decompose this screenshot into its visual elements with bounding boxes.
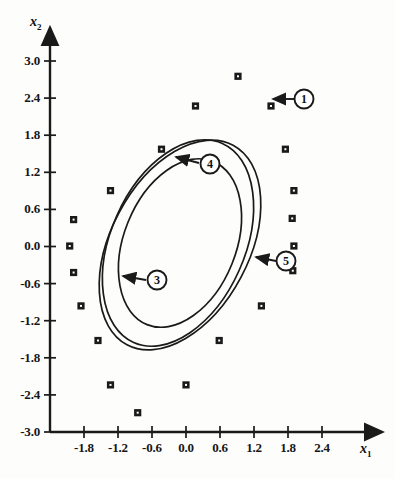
inner-ellipse: [95, 140, 265, 345]
scatter-plot-figure: 3.0 2.4 1.8 1.2 0.6 0.0 -0.6 -1.2 -1.8 -…: [0, 0, 395, 479]
data-point: [96, 338, 101, 343]
y-axis-title-text: x: [30, 14, 37, 29]
data-points: [67, 74, 296, 415]
y-tick-label-0.6: 0.6: [0, 201, 40, 217]
x-tick-label-neg1.8: -1.8: [74, 440, 94, 456]
data-point: [217, 338, 222, 343]
y-tick-label-0.0: 0.0: [0, 238, 40, 254]
data-point: [290, 216, 295, 221]
callout-label-4: 4: [207, 158, 213, 170]
data-point: [184, 383, 189, 388]
plot-canvas: [0, 0, 395, 479]
x-axis-title-subscript: 1: [367, 449, 372, 459]
y-tick-label-neg1.8: -1.8: [0, 350, 40, 366]
data-point: [283, 147, 288, 152]
callout-label-1: 1: [301, 93, 307, 105]
data-point: [71, 217, 76, 222]
data-point: [236, 74, 241, 79]
y-tick-label-3.0: 3.0: [0, 53, 40, 69]
callout-arrow-3: [123, 276, 146, 280]
data-point: [292, 188, 297, 193]
x-tick-label-1.8: 1.8: [280, 440, 296, 456]
y-axis-title: x2: [30, 14, 42, 32]
data-point: [67, 244, 72, 249]
data-point: [108, 383, 113, 388]
x-tick-label-0.0: 0.0: [178, 440, 194, 456]
x-axis-title: x1: [360, 441, 372, 459]
axis-lines: [50, 44, 366, 432]
middle-ellipse: [72, 116, 283, 370]
x-tick-label-1.2: 1.2: [246, 440, 262, 456]
x-axis-title-text: x: [360, 441, 367, 456]
x-tick-label-neg0.6: -0.6: [142, 440, 162, 456]
data-point: [193, 104, 198, 109]
y-axis-title-subscript: 2: [37, 22, 42, 32]
x-tick-label-0.6: 0.6: [212, 440, 228, 456]
data-point: [71, 270, 76, 275]
y-tick-label-2.4: 2.4: [0, 90, 40, 106]
callout-label-3: 3: [154, 274, 160, 286]
y-tick-label-neg0.6: -0.6: [0, 276, 40, 292]
x-tick-label-2.4: 2.4: [314, 440, 330, 456]
callout-label-5: 5: [283, 255, 289, 267]
y-tick-label-neg1.2: -1.2: [0, 313, 40, 329]
y-tick-label-neg3.0: -3.0: [0, 424, 40, 440]
y-tick-label-1.8: 1.8: [0, 127, 40, 143]
data-point: [292, 244, 297, 249]
data-point: [159, 147, 164, 152]
y-tick-label-1.2: 1.2: [0, 164, 40, 180]
data-point: [135, 410, 140, 415]
callout-arrows: [123, 99, 294, 280]
data-point: [79, 304, 84, 309]
callout-arrow-4: [176, 157, 199, 163]
data-point: [269, 104, 274, 109]
data-point: [259, 304, 264, 309]
callout-arrow-5: [256, 257, 276, 261]
y-tick-label-neg2.4: -2.4: [0, 387, 40, 403]
x-tick-label-neg1.2: -1.2: [108, 440, 128, 456]
data-point: [108, 188, 113, 193]
